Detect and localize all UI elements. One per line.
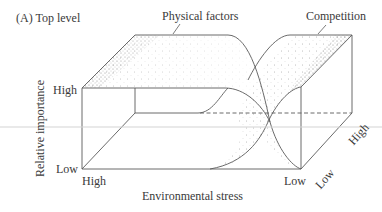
y-axis-label: Relative importance [34,80,46,177]
competition-label: Competition [306,10,366,22]
panel-label: (A) Top level [16,12,80,24]
y-axis-high: High [53,84,77,96]
competition-leader-line [318,25,326,34]
physical-factors-label: Physical factors [162,10,238,22]
x-axis-low: Low [284,175,306,187]
y-axis-low: Low [56,163,78,175]
physical-leader-line [173,24,180,34]
x-axis-high: High [82,175,106,187]
x-axis-label: Environmental stress [142,190,243,202]
